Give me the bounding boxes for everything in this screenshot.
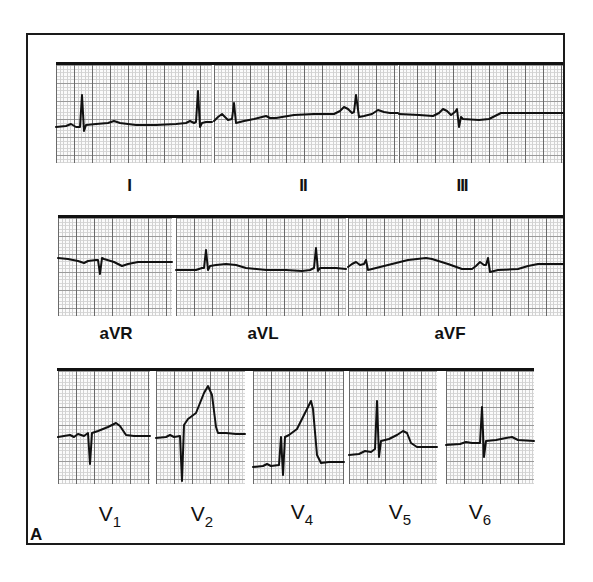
lead-label-III: III: [456, 176, 467, 196]
ecg-trace-lead-aVL: [176, 218, 346, 316]
lead-label-V4: V4: [291, 500, 313, 528]
lead-label-V5-letter: V: [389, 500, 403, 523]
lead-label-V6: V6: [469, 500, 491, 528]
ecg-panel-lead-V5: [349, 371, 437, 484]
ecg-trace-lead-III: [399, 65, 563, 163]
lead-label-II: II: [299, 176, 306, 196]
lead-label-V2: V2: [191, 502, 213, 530]
lead-label-aVF: aVF: [434, 324, 465, 344]
ecg-trace-lead-aVR: [58, 218, 172, 316]
lead-label-V6-sub: 6: [483, 511, 491, 528]
lead-label-V4-sub: 4: [305, 511, 313, 528]
ecg-panel-lead-II: [214, 65, 398, 163]
ecg-panel-lead-V4: [253, 371, 344, 484]
ecg-trace-lead-V2: [156, 371, 245, 484]
ecg-panel-lead-aVL: [176, 218, 346, 316]
ecg-panel-lead-V6: [446, 371, 534, 484]
lead-label-V1: V1: [99, 502, 121, 530]
lead-label-V5-sub: 5: [403, 511, 411, 528]
ecg-trace-lead-II: [214, 65, 398, 163]
lead-label-I: I: [127, 176, 131, 196]
lead-label-V4-letter: V: [291, 500, 305, 523]
ecg-trace-lead-V4: [253, 371, 344, 484]
ecg-panel-lead-V1: [58, 371, 150, 484]
ecg-panel-lead-V2: [156, 371, 245, 484]
ecg-trace-lead-I: [56, 65, 212, 163]
ecg-panel-lead-I: [56, 65, 212, 163]
lead-label-V2-letter: V: [191, 502, 205, 525]
ecg-panel-lead-aVF: [348, 218, 563, 316]
lead-label-V5: V5: [389, 500, 411, 528]
ecg-trace-lead-V5: [349, 371, 437, 484]
figure-panel-letter: A: [30, 525, 42, 545]
lead-label-V1-letter: V: [99, 502, 113, 525]
ecg-panel-lead-aVR: [58, 218, 172, 316]
ecg-trace-lead-aVF: [348, 218, 563, 316]
lead-label-V1-sub: 1: [113, 513, 121, 530]
lead-label-aVR: aVR: [99, 324, 132, 344]
ecg-panel-lead-III: [399, 65, 563, 163]
lead-label-aVL: aVL: [247, 324, 278, 344]
ecg-trace-lead-V6: [446, 371, 534, 484]
ecg-trace-lead-V1: [58, 371, 150, 484]
lead-label-V6-letter: V: [469, 500, 483, 523]
lead-label-V2-sub: 2: [205, 513, 213, 530]
